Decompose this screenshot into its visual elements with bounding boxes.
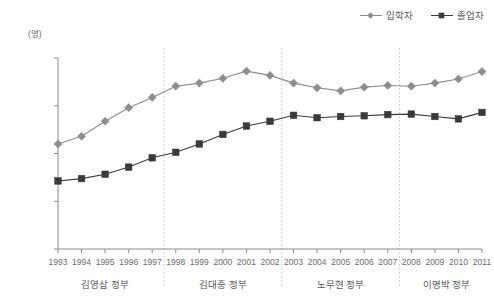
data-point-marker-diamond	[289, 79, 297, 87]
x-axis-tick-label: 1998	[166, 257, 185, 267]
x-axis-tick-label: 2003	[284, 257, 303, 267]
data-point-marker-square	[220, 131, 227, 138]
period-label: 이명박 정부	[423, 277, 471, 291]
x-axis-tick-label: 2000	[213, 257, 232, 267]
data-point-marker-diamond	[101, 117, 109, 125]
data-point-marker-square	[290, 112, 297, 119]
data-point-marker-square	[384, 111, 391, 118]
data-point-marker-square	[267, 118, 274, 125]
x-axis-tick-label: 1995	[96, 257, 115, 267]
x-axis-tick-label: 2011	[473, 257, 491, 267]
data-point-marker-diamond	[454, 75, 462, 83]
data-point-marker-diamond	[219, 74, 227, 82]
data-point-marker-square	[337, 113, 344, 120]
data-point-marker-diamond	[172, 82, 180, 90]
x-axis-tick-label: 2005	[331, 257, 350, 267]
data-point-marker-diamond	[431, 79, 439, 87]
period-label: 김대중 정부	[199, 277, 247, 291]
data-point-marker-square	[149, 154, 156, 161]
x-axis-tick-label: 2004	[308, 257, 327, 267]
period-label: 김영삼 정부	[81, 277, 129, 291]
data-point-marker-square	[102, 171, 109, 178]
data-point-marker-square	[314, 114, 321, 121]
x-axis-tick-label: 2001	[237, 257, 256, 267]
data-point-marker-square	[455, 116, 462, 123]
x-axis-tick-label: 2009	[425, 257, 444, 267]
x-axis-tick-label: 1994	[72, 257, 91, 267]
data-point-marker-diamond	[337, 87, 345, 95]
data-point-marker-diamond	[195, 79, 203, 87]
data-point-marker-diamond	[313, 84, 321, 92]
data-point-marker-square	[55, 178, 62, 185]
chart-figure: 입학자 졸업자 (명) 900,000700,000500,000300,000…	[0, 0, 494, 305]
period-label: 노무현 정부	[317, 277, 365, 291]
x-axis-tick-label: 1997	[143, 257, 162, 267]
series-line-1	[58, 71, 482, 144]
x-axis-tick-label: 1999	[190, 257, 209, 267]
data-point-marker-diamond	[125, 104, 133, 112]
data-point-marker-diamond	[360, 83, 368, 91]
x-axis-tick-label: 2010	[449, 257, 468, 267]
data-point-marker-diamond	[384, 81, 392, 89]
x-axis-tick-label: 1993	[49, 257, 68, 267]
x-axis-tick-label: 2006	[355, 257, 374, 267]
data-point-marker-square	[408, 111, 415, 118]
data-point-marker-square	[78, 175, 85, 182]
data-point-marker-diamond	[54, 140, 62, 148]
x-axis-tick-label: 2008	[402, 257, 421, 267]
x-axis-tick-label: 2007	[378, 257, 397, 267]
x-axis-tick-label: 2002	[261, 257, 280, 267]
data-point-marker-diamond	[478, 68, 486, 76]
data-point-marker-square	[479, 109, 486, 116]
data-point-marker-diamond	[148, 93, 156, 101]
data-point-marker-diamond	[266, 71, 274, 79]
data-point-marker-diamond	[407, 82, 415, 90]
data-point-marker-square	[172, 149, 179, 156]
data-point-marker-square	[196, 141, 203, 148]
data-point-marker-square	[361, 112, 368, 119]
data-point-marker-diamond	[77, 132, 85, 140]
data-point-marker-square	[125, 164, 132, 171]
x-axis-tick-label: 1996	[119, 257, 138, 267]
data-point-marker-square	[243, 123, 250, 130]
data-point-marker-square	[432, 113, 439, 120]
data-point-marker-diamond	[242, 67, 250, 75]
